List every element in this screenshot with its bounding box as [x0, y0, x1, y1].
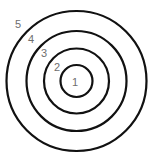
label-4: 4 [28, 33, 34, 45]
label-3: 3 [41, 47, 47, 59]
label-1: 1 [72, 76, 78, 88]
label-5: 5 [15, 18, 21, 30]
label-2: 2 [54, 61, 60, 73]
target-diagram: 1 2 3 4 5 [0, 0, 151, 153]
